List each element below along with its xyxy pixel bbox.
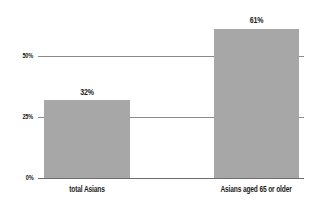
- bar-value-label-asians-65-or-older: 61%: [223, 15, 289, 25]
- bar-total-asians: [44, 100, 130, 178]
- bar-chart: 50% 25% 0% 32% 61% total Asians Asians a…: [0, 0, 321, 204]
- category-label-total-asians: total Asians: [46, 184, 129, 194]
- bar-asians-65-or-older: [214, 29, 299, 178]
- bar-value-label-total-asians: 32%: [53, 87, 120, 97]
- baseline-0: [38, 178, 304, 179]
- y-tick-label-0: 0%: [26, 174, 33, 182]
- y-tick-label-50: 50%: [23, 52, 33, 60]
- category-label-asians-65-or-older: Asians aged 65 or older: [209, 184, 303, 194]
- y-tick-label-25: 25%: [23, 113, 33, 121]
